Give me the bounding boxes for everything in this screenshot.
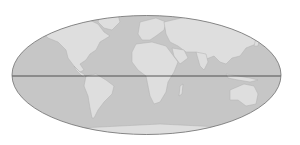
world-map [0, 0, 300, 145]
new-zealand [268, 102, 273, 110]
antarctica [40, 124, 270, 140]
